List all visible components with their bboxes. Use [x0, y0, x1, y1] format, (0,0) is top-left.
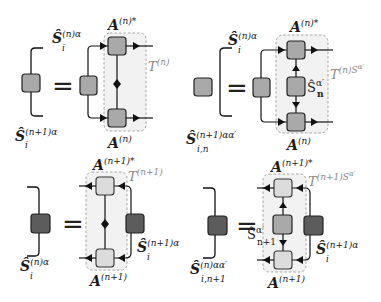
lhs-label-sub: i: [25, 141, 28, 150]
a-label: A(n+1): [90, 273, 127, 288]
a-conj-label: A(n)*: [290, 19, 318, 34]
t-label: T(n)Sα′: [330, 64, 364, 81]
a-box: [108, 109, 126, 127]
t-label: T(n+1): [128, 168, 163, 183]
lhs-label-sub: i,n: [197, 145, 209, 154]
s-label: Ŝ(n+1)α: [137, 239, 179, 254]
a-label: A(n+1): [268, 275, 305, 290]
s-label: Ŝ(n+1)α: [316, 241, 358, 256]
panel-bottom-left: [27, 172, 144, 270]
equals-sign: =: [52, 73, 74, 99]
lhs-label: Ŝ(n)α: [20, 258, 49, 273]
s-label-sub: i: [62, 44, 65, 53]
a-conj-box: [108, 37, 126, 55]
lhs-label-sub: i: [30, 272, 33, 281]
s-label-sub: i: [326, 255, 329, 264]
lhs-label: Ŝ(n+1)αα′: [186, 131, 236, 146]
middle-s-label-sub: n: [317, 90, 324, 99]
s-label: Ŝ(n)α: [228, 32, 257, 47]
s-tensor-box: [80, 76, 97, 95]
a-label: A(n): [287, 137, 311, 152]
lhs-tensor-box: [22, 74, 40, 92]
panel-bottom-right: [203, 174, 323, 272]
lhs-label-sub: i,n+1: [201, 275, 226, 284]
middle-s-label-sub: n+1: [257, 238, 276, 247]
s-label-sub: i: [147, 253, 150, 262]
equals-sign: =: [226, 75, 248, 101]
s-label: Ŝ(n)α: [52, 30, 81, 45]
panel-top-left: [22, 33, 153, 131]
lhs-label: Ŝ(n+1)α: [15, 128, 57, 143]
a-label: A(n): [108, 135, 132, 150]
t-label: T(n): [148, 58, 170, 73]
equals-sign: =: [62, 211, 84, 237]
t-label: T(n+1)Sα′: [308, 171, 355, 188]
a-conj-label: A(n)*: [108, 17, 136, 32]
a-conj-label: A(n+1)*: [271, 159, 312, 174]
s-label-sub: i: [238, 46, 241, 55]
